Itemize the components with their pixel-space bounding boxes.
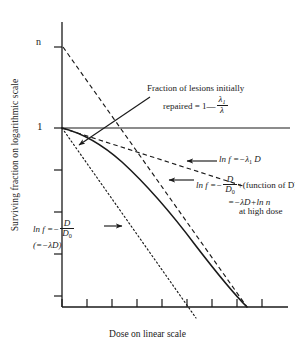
dd0-lambda-equivalent: (=−λD) — [33, 241, 75, 250]
fraction-line1: Fraction of lesions initially — [147, 83, 244, 93]
lambda-denominator: λ — [217, 105, 228, 115]
single-hit-fraction: DD0 — [60, 219, 74, 239]
lambda-ratio-fraction: λ1λ — [217, 95, 228, 115]
d0fn-tail: +(function of D) — [238, 180, 295, 190]
d0fn-denominator-subscript: 0 — [232, 189, 235, 195]
y-tick-label-one: 1 — [37, 121, 43, 133]
x-axis-title: Dose on linear scale — [0, 330, 295, 340]
d0fn-prefix: ln f =− — [196, 180, 222, 190]
annotation-high-dose: =−λD+ln n at high dose — [228, 198, 283, 217]
annotation-d0-function: ln f =−DD0+(function of D) — [196, 175, 295, 195]
y-tick-label-n: n — [36, 37, 41, 48]
d0fn-numerator: D — [223, 175, 237, 184]
highdose-caption: at high dose — [239, 207, 283, 216]
annotation-arrows — [79, 97, 217, 226]
dd0-prefix: ln f =− — [33, 224, 59, 234]
x-axis-ticks — [62, 299, 262, 307]
lambda1-subscript: 1 — [222, 99, 225, 105]
dd0-denominator-subscript: 0 — [69, 233, 72, 239]
lam1-equation: ln f =−λ — [219, 154, 249, 164]
y-axis-title: Surviving fraction on logarithmic scale — [11, 70, 21, 240]
annotation-initial-slope: ln f =−λ1 D — [219, 155, 261, 165]
annotation-single-hit: ln f =−DD0 (=−λD) — [33, 219, 75, 251]
dd0-numerator: D — [60, 219, 74, 228]
fraction-of-lesions-pointer — [79, 97, 150, 145]
lam1-equation-tail: D — [252, 154, 261, 164]
d-over-d0-fraction: DD0 — [223, 175, 237, 195]
curve-single-hit-dotted — [62, 128, 196, 318]
fraction-line2-prefix: repaired = 1— — [163, 101, 216, 111]
annotation-fraction-of-lesions: Fraction of lesions initially repaired =… — [147, 84, 244, 116]
y-axis-ticks — [54, 47, 62, 296]
survival-curve-figure: Surviving fraction on logarithmic scale … — [0, 0, 295, 352]
